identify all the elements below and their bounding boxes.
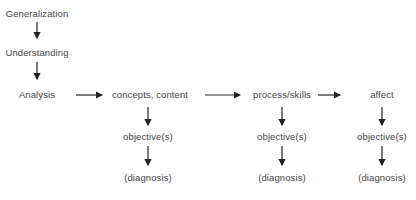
node-diagnosis-3: (diagnosis)	[358, 172, 406, 183]
node-analysis: Analysis	[19, 89, 55, 100]
diagram-canvas: Generalization Understanding Analysis co…	[0, 0, 416, 200]
node-affect: affect	[370, 89, 394, 100]
node-understanding: Understanding	[5, 47, 68, 58]
node-diagnosis-2: (diagnosis)	[258, 172, 306, 183]
node-objective-3: objective(s)	[357, 131, 407, 142]
node-objective-2: objective(s)	[257, 131, 307, 142]
node-objective-1: objective(s)	[123, 131, 173, 142]
arrows-layer	[0, 0, 416, 200]
node-process-skills: process/skills	[253, 89, 311, 100]
node-generalization: Generalization	[6, 8, 69, 19]
node-diagnosis-1: (diagnosis)	[124, 172, 172, 183]
node-concepts-content: concepts, content	[112, 89, 188, 100]
